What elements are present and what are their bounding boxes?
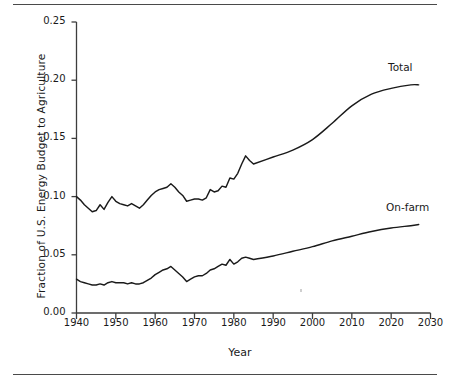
- x-tick-label: 2010: [332, 317, 372, 328]
- x-tick-label: 1950: [96, 317, 136, 328]
- y-tick-label: 0.25: [32, 15, 66, 26]
- x-tick-label: 1940: [57, 317, 97, 328]
- y-tick-label: 0.15: [32, 131, 66, 142]
- y-tick-label: 0.10: [32, 190, 66, 201]
- x-tick-label: 1960: [135, 317, 175, 328]
- x-tick-label: 1970: [175, 317, 215, 328]
- x-tick-label: 2000: [293, 317, 333, 328]
- y-tick-label: 0.05: [32, 248, 66, 259]
- series-label-total: Total: [388, 61, 413, 73]
- chart-curves: [77, 85, 419, 285]
- x-tick-label: 2020: [371, 317, 411, 328]
- x-tick-label: 2030: [411, 317, 451, 328]
- x-tick-label: 1990: [253, 317, 293, 328]
- chart-axes: [72, 22, 431, 319]
- y-tick-label: 0.00: [32, 306, 66, 317]
- y-tick-label: 0.20: [32, 73, 66, 84]
- x-tick-label: 1980: [214, 317, 254, 328]
- series-label-onfarm: On-farm: [386, 201, 429, 213]
